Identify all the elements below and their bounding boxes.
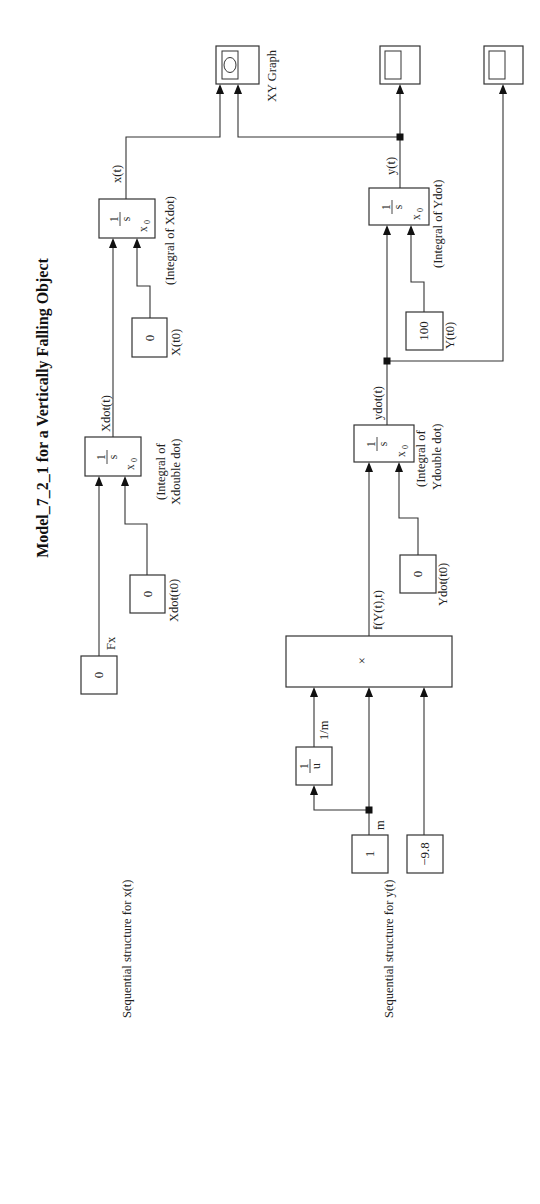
xy-graph-label: XY Graph [265, 49, 279, 102]
integrator-numerator: 1 [95, 454, 107, 460]
x-signal-label: x(t) [110, 165, 124, 183]
ydot-integrator-caption-1: (Integral of [414, 430, 428, 487]
diagram-title: Model_7_2_1 for a Vertically Falling Obj… [34, 258, 52, 558]
xdot0-constant-value: 0 [140, 591, 155, 598]
xdot-integrator-caption-1: (Integral of [154, 443, 168, 500]
y0-constant-block[interactable]: 100 [406, 312, 443, 350]
fx-constant-block[interactable]: 0 [81, 656, 117, 694]
reciprocal-denominator: u [310, 763, 322, 769]
integrator-ic-sub: 0 [401, 445, 410, 449]
integrator-denominator: s [107, 454, 119, 459]
mass-constant-block[interactable]: 1 [352, 835, 388, 873]
fx-constant-value: 0 [91, 672, 106, 679]
simulink-diagram: Model_7_2_1 for a Vertically Falling Obj… [0, 0, 540, 1204]
ydot0-constant-value: 0 [410, 571, 425, 578]
junction-ydot [384, 358, 391, 365]
gravity-constant-value: −9.8 [417, 842, 432, 866]
integrator-ic-sub: 0 [130, 458, 139, 462]
gravity-constant-block[interactable]: −9.8 [407, 835, 443, 873]
integrator-numerator: 1 [108, 216, 120, 222]
integrator-ic: x [124, 464, 136, 470]
reciprocal-block[interactable]: 1 u [296, 747, 332, 785]
force-signal-label: f(Y(t),t) [371, 590, 385, 630]
y-structure-label: Sequential structure for y(t) [382, 880, 396, 1019]
x-integrator-block[interactable]: 1 s x 0 [99, 199, 155, 238]
y-signal-label: y(t) [384, 157, 398, 175]
integrator-denominator: s [120, 216, 132, 221]
x-structure-label: Sequential structure for x(t) [120, 880, 134, 1019]
integrator-numerator: 1 [365, 441, 377, 447]
ydot-integrator-caption-2: Ydouble dot) [430, 424, 444, 490]
xdot-integrator-block[interactable]: 1 s x 0 [85, 437, 141, 476]
y-integrator-caption: (Integral of Ydot) [431, 180, 445, 268]
scope-y-block[interactable] [380, 46, 420, 84]
x0-constant-block[interactable]: 0 [132, 318, 167, 357]
integrator-denominator: s [377, 441, 389, 446]
reciprocal-numerator: 1 [298, 763, 310, 769]
xdot0-label: Xdot(t0) [167, 579, 181, 622]
integrator-denominator: s [392, 204, 404, 209]
ydot0-constant-block[interactable]: 0 [400, 555, 436, 593]
x0-constant-value: 0 [142, 335, 157, 342]
integrator-ic-sub: 0 [143, 220, 152, 224]
junction-y [397, 134, 404, 141]
xdot-integrator-caption-2: Xdouble dot) [169, 439, 183, 505]
scope-ydot-block[interactable] [484, 46, 523, 84]
mass-constant-value: 1 [362, 851, 377, 858]
integrator-ic: x [395, 451, 407, 457]
product-symbol: × [358, 653, 365, 668]
ydot0-label: Ydot(t0) [436, 563, 450, 606]
product-block[interactable]: × [286, 636, 452, 687]
x-integrator-caption: (Integral of Xdot) [163, 196, 177, 285]
xy-graph-block[interactable] [216, 46, 259, 84]
y0-label: Y(t0) [443, 322, 457, 349]
x0-label: X(t0) [169, 329, 183, 356]
xdot-signal-label: Xdot(t) [99, 395, 113, 432]
ydot-signal-label: ydot(t) [371, 386, 385, 420]
fx-signal-label: Fx [104, 636, 118, 650]
y-integrator-block[interactable]: 1 s x 0 [369, 188, 429, 225]
integrator-ic-sub: 0 [416, 208, 425, 212]
mass-signal-label: m [373, 820, 387, 830]
y0-constant-value: 100 [416, 321, 431, 341]
integrator-ic: x [410, 214, 422, 220]
integrator-numerator: 1 [380, 204, 392, 210]
integrator-ic: x [137, 226, 149, 232]
inverse-mass-signal-label: 1/m [317, 720, 331, 740]
xdot0-constant-block[interactable]: 0 [130, 575, 165, 613]
ydot-integrator-block[interactable]: 1 s x 0 [354, 425, 414, 462]
junction-mass [366, 807, 373, 814]
